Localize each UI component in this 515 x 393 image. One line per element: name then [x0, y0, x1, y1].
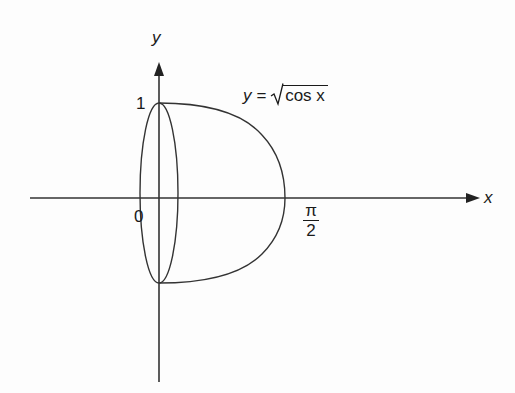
equation-radicand: cos x: [282, 85, 328, 106]
origin-label: 0: [134, 207, 143, 227]
y-axis-arrow-icon: [154, 62, 164, 76]
curve-equation: y =cos x: [243, 85, 328, 106]
frac-denominator: 2: [303, 222, 319, 239]
x-tick-pi-over-2: π 2: [303, 202, 319, 239]
radical-icon: [270, 82, 284, 106]
y-tick-1: 1: [136, 94, 145, 114]
y-axis-label: y: [152, 28, 161, 48]
x-axis-label: x: [484, 188, 493, 208]
x-axis-arrow-icon: [466, 193, 480, 203]
equation-lhs: y =: [243, 86, 266, 105]
figure-canvas: y x 1 0 π 2 y =cos x: [0, 0, 515, 393]
frac-numerator: π: [303, 202, 319, 219]
sqrt-symbol: cos x: [270, 85, 328, 106]
plot-svg: [0, 0, 515, 393]
